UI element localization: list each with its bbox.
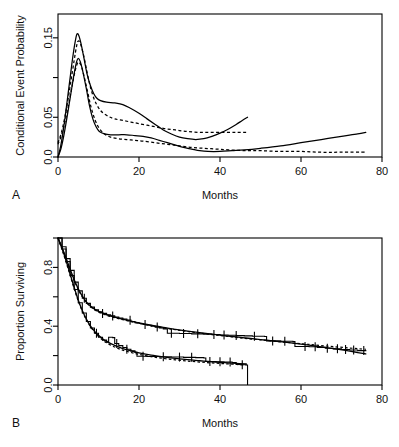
series-group1-model — [58, 238, 366, 349]
y-axis-title: Proportion Surviving — [14, 262, 26, 361]
y-axis-title: Conditional Event Probability — [14, 15, 26, 156]
y-tick-label: 0.0 — [42, 377, 54, 392]
series-group1-smooth — [58, 238, 366, 354]
y-tick-label: 0.4 — [42, 319, 54, 334]
panel-a: 0204060800.00.050.15MonthsConditional Ev… — [0, 0, 399, 223]
plot-frame — [58, 14, 382, 157]
panel-letter: A — [12, 188, 20, 202]
panel-letter: B — [12, 416, 20, 430]
x-axis-title: Months — [202, 417, 239, 429]
x-tick-label: 80 — [376, 165, 388, 177]
series-group2-model — [58, 62, 366, 152]
x-axis-title: Months — [202, 189, 239, 201]
y-tick-label: 0.05 — [42, 107, 54, 128]
x-tick-label: 0 — [55, 393, 61, 405]
x-tick-label: 20 — [133, 393, 145, 405]
x-tick-label: 60 — [295, 393, 307, 405]
x-tick-label: 40 — [214, 393, 226, 405]
y-tick-label: 0.0 — [42, 149, 54, 164]
y-tick-label: 0.8 — [42, 260, 54, 275]
figure-container: 0204060800.00.050.15MonthsConditional Ev… — [0, 0, 399, 447]
series-group1-model — [58, 41, 246, 143]
series-group2-observed — [58, 58, 366, 157]
panel-b: 0204060800.00.40.8MonthsProportion Survi… — [0, 224, 399, 447]
panel-b-plot: 0204060800.00.40.8MonthsProportion Survi… — [0, 224, 399, 447]
x-tick-label: 0 — [55, 165, 61, 177]
x-tick-label: 40 — [214, 165, 226, 177]
panel-a-plot: 0204060800.00.050.15MonthsConditional Ev… — [0, 0, 399, 223]
x-tick-label: 80 — [376, 393, 388, 405]
x-tick-label: 60 — [295, 165, 307, 177]
y-tick-label: 0.15 — [42, 27, 54, 48]
x-tick-label: 20 — [133, 165, 145, 177]
